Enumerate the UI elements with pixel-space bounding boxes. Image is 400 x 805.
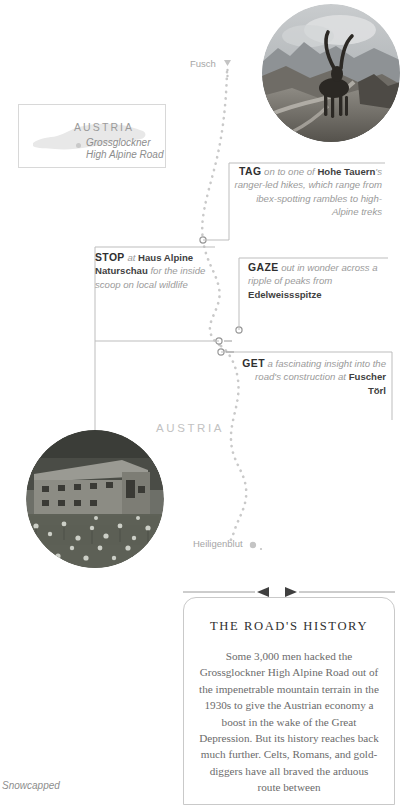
photo-caption: Snowcapped (2, 780, 60, 791)
pin-icon (224, 60, 231, 77)
place-label-heiligenblut: Heiligenblut (193, 538, 243, 549)
place-label-fusch: Fusch (190, 58, 216, 69)
inset-road-label: Grossglockner High Alpine Road (86, 137, 163, 160)
map-country-label: AUSTRIA (156, 422, 224, 434)
tip-tag: TAG on to one of Hohe Tauern's ranger-le… (234, 165, 382, 219)
tip-tag-verb: TAG (239, 166, 261, 177)
tip-gaze-verb: GAZE (248, 262, 278, 273)
tip-get: GET a fascinating insight into the road'… (240, 357, 386, 397)
tip-stop: STOP at Haus Alpine Naturschau for the i… (95, 251, 215, 291)
road-location-dot-icon (76, 143, 81, 148)
arrow-left-icon (257, 587, 269, 597)
arrow-right-icon (285, 587, 297, 597)
tip-gaze: GAZE out in wonder across a ripple of pe… (248, 261, 388, 301)
tip-stop-verb: STOP (95, 252, 125, 263)
history-card-title: THE ROAD'S HISTORY (184, 619, 394, 634)
ibex-on-mountain-ridge-photo (262, 4, 400, 142)
inset-country-label: AUSTRIA (74, 121, 134, 133)
tip-get-verb: GET (242, 358, 265, 369)
tip-get-text: a fascinating insight into the road's co… (255, 358, 386, 396)
austria-inset-map: AUSTRIA Grossglockner High Alpine Road (18, 104, 166, 168)
ibex-photo (262, 4, 400, 142)
dotted-road-path (202, 72, 246, 545)
road-history-card: THE ROAD'S HISTORY Some 3,000 men hacked… (183, 597, 395, 805)
dot-icon (250, 542, 262, 550)
alpine-stone-building-wildflowers-photo (26, 430, 164, 568)
haus-alpine-photo (26, 430, 164, 568)
infographic-page: AUSTRIA Grossglockner High Alpine Road (0, 0, 400, 805)
history-card-body: Some 3,000 men hacked the Grossglockner … (198, 648, 380, 796)
